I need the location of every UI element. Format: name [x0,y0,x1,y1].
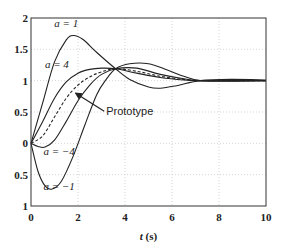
curve-label: a = −4 [44,145,76,157]
arrow-icon [76,93,105,111]
y-tick-label: 1 [23,75,29,87]
y-tick-label: 0.5 [14,106,28,118]
x-tick-label: 8 [216,211,222,223]
series-line [31,36,266,144]
curve-label: a = −1 [44,180,75,192]
x-tick-label: 0 [28,211,34,223]
step-response-chart: 024681021.510.500.51 a = 1a = 4Prototype… [0,0,284,249]
prototype-label: Prototype [106,105,153,117]
x-tick-label: 10 [261,211,273,223]
y-tick-label: 1.5 [14,43,28,55]
curve-label: a = 1 [54,17,78,29]
x-tick-label: 2 [75,211,81,223]
x-tick-label: 6 [169,211,175,223]
curve-label: a = 4 [45,58,69,70]
y-tick-label: 0 [23,137,29,149]
y-tick-label: 2 [23,12,29,24]
x-tick-label: 4 [122,211,128,223]
annotations: a = 1a = 4Prototypea = −4a = −1 [44,17,154,192]
y-tick-label: 1 [23,200,29,212]
x-axis-label: t (s) [140,230,158,243]
y-tick-label: 0.5 [14,169,28,181]
